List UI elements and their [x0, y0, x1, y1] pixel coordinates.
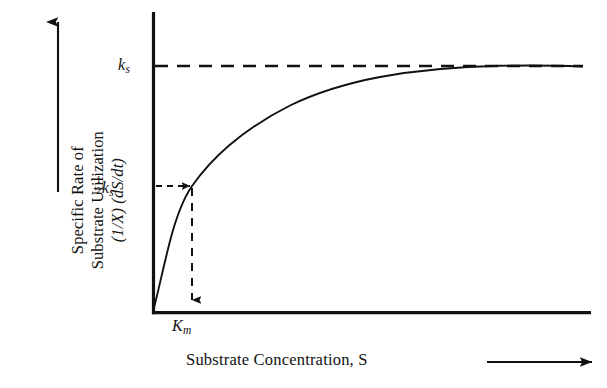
- km-symbol: K: [172, 317, 183, 334]
- half-ks-subscript: s: [109, 186, 113, 198]
- x-axis-title: Substrate Concentration, S: [186, 350, 368, 370]
- x-axis-title-text: Substrate Concentration, S: [186, 350, 368, 370]
- one-half-fraction: 1 2: [96, 175, 101, 196]
- fraction-denominator: 2: [96, 186, 101, 197]
- monod-saturation-figure: Specific Rate of Substrate Utilization (…: [0, 0, 607, 388]
- saturation-curve: [153, 66, 582, 313]
- y-tick-label-half-ks: 1 2 ks: [96, 175, 114, 198]
- x-tick-label-km: Km: [172, 318, 191, 337]
- ks-symbol: k: [118, 56, 125, 73]
- km-subscript: m: [183, 324, 191, 336]
- half-ks-symbol: k: [102, 179, 109, 196]
- y-tick-label-ks: ks: [118, 57, 130, 76]
- ks-subscript: s: [126, 63, 130, 75]
- plot-canvas: [0, 0, 607, 388]
